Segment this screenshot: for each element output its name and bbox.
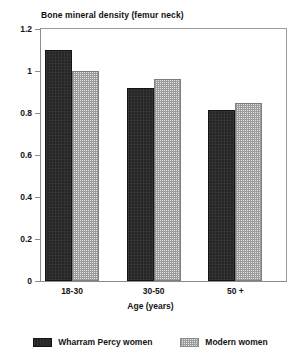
x-axis-tick-label: 18-30 xyxy=(61,286,83,296)
bars-layer xyxy=(41,29,286,281)
legend-label: Wharram Percy women xyxy=(58,337,152,347)
bar-50--series-1 xyxy=(235,103,262,282)
y-axis-tick-mark xyxy=(35,155,40,156)
bar-30-50-series-0 xyxy=(127,88,154,281)
light-stipple-swatch xyxy=(180,338,199,347)
y-axis-tick-mark xyxy=(35,71,40,72)
chart-legend: Wharram Percy womenModern women xyxy=(0,334,301,350)
bar-18-30-series-0 xyxy=(45,50,72,281)
y-axis-tick-label: 0.2 xyxy=(20,234,32,244)
legend-entry: Wharram Percy women xyxy=(33,337,152,347)
y-axis-tick-mark xyxy=(35,281,40,282)
bar-18-30-series-1 xyxy=(72,71,99,281)
dark-solid-swatch xyxy=(33,338,52,347)
y-axis-tick-label: 0.8 xyxy=(20,108,32,118)
y-axis-tick-mark xyxy=(35,29,40,30)
legend-entry: Modern women xyxy=(180,337,267,347)
chart-title: Bone mineral density (femur neck) xyxy=(41,10,184,20)
bar-30-50-series-1 xyxy=(154,79,181,281)
x-axis-title: Age (years) xyxy=(0,301,301,311)
y-axis-tick-label: 0.4 xyxy=(20,192,32,202)
x-axis-tick-labels: 18-3030-5050 + xyxy=(0,286,301,300)
y-axis-tick-mark xyxy=(35,113,40,114)
y-axis-tick-label: 1.2 xyxy=(20,24,32,34)
y-axis-tick-label: 1 xyxy=(27,66,32,76)
x-axis-tick-label: 30-50 xyxy=(143,286,165,296)
y-axis-tick-label: 0.6 xyxy=(20,150,32,160)
x-axis-tick-label: 50 + xyxy=(227,286,244,296)
y-axis-tick-label: 0 xyxy=(27,276,32,286)
bar-50--series-0 xyxy=(208,110,235,281)
y-axis-tick-mark xyxy=(35,197,40,198)
y-axis-tick-mark xyxy=(35,239,40,240)
legend-label: Modern women xyxy=(205,337,267,347)
